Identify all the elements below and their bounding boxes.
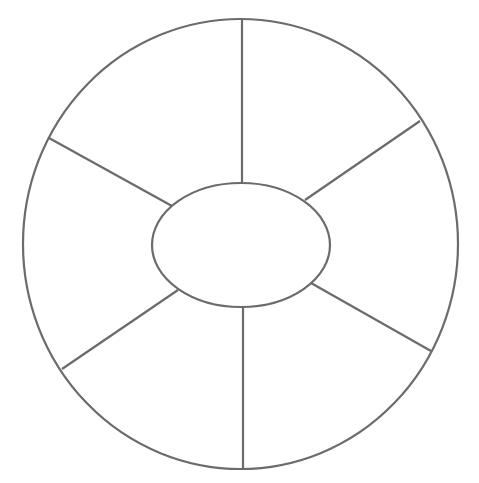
center-ellipse <box>152 183 330 307</box>
spoke-diagram <box>0 0 479 483</box>
